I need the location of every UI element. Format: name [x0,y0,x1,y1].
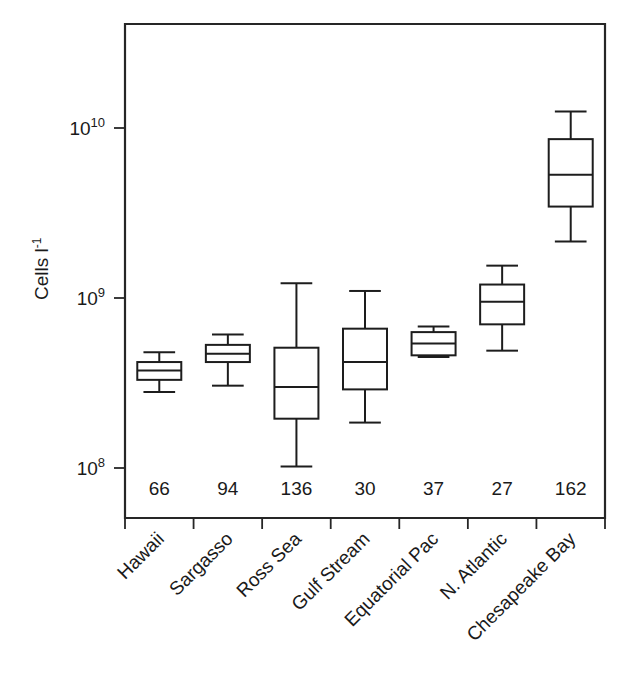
y-axis-title: Cells l-1 [30,237,52,300]
y-axis-title-text: Cells l-1 [30,237,52,300]
box-plot-item [274,283,318,466]
box-plot-series [137,112,592,467]
y-tick-label: 109 [77,285,105,309]
sample-count-label: 27 [492,478,513,499]
box-plot-item [549,112,593,242]
sample-count-label: 94 [217,478,239,499]
y-axis-ticks [114,128,125,468]
y-tick-label: 108 [77,455,105,479]
box-plot-item [137,352,181,392]
box-plot-figure: 1010109108 Cells l-1 6694136303727162 Ha… [0,0,635,679]
interquartile-box [480,285,524,325]
x-axis-category-label: Sargasso [165,528,237,600]
box-plot-item [480,266,524,351]
interquartile-box [343,329,387,390]
x-axis-category-label: Hawaii [113,528,168,583]
x-axis-category-labels: HawaiiSargassoRoss SeaGulf StreamEquator… [113,528,580,646]
sample-count-label: 162 [555,478,587,499]
axes-frame [125,24,605,518]
y-axis-tick-labels: 1010109108 [69,115,105,479]
x-axis-category-label: Ross Sea [232,528,305,601]
sample-count-label: 66 [149,478,170,499]
chart-canvas: 1010109108 Cells l-1 6694136303727162 Ha… [0,0,635,679]
box-plot-item [206,334,250,385]
sample-count-label: 37 [423,478,444,499]
box-plot-item [412,326,456,356]
interquartile-box [274,348,318,419]
x-axis-ticks [125,518,605,529]
sample-count-label: 136 [281,478,313,499]
box-plot-item [343,291,387,423]
interquartile-box [549,139,593,206]
sample-count-labels: 6694136303727162 [149,478,587,499]
plot-frame [125,24,605,518]
sample-count-label: 30 [354,478,375,499]
y-tick-label: 1010 [69,115,105,139]
